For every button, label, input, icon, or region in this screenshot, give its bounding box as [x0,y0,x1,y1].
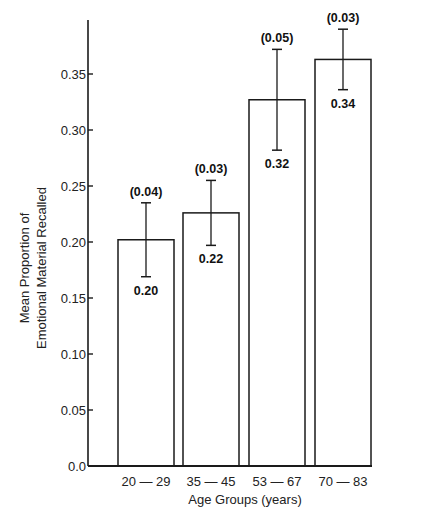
x-axis-title: Age Groups (years) [188,492,301,507]
bar-chart: 0.00.050.100.150.200.250.300.35 (0.04)0.… [0,0,424,515]
value-label: 0.32 [265,157,289,171]
x-tick-label: 70 — 83 [318,474,367,489]
bars: (0.04)0.20(0.03)0.22(0.05)0.32(0.03)0.34 [118,11,371,466]
y-axis-title-line: Mean Proportion of [17,212,32,323]
error-label: (0.03) [195,162,228,176]
bar-group: (0.05)0.32 [249,31,305,466]
bar [249,100,305,466]
x-tick-label: 20 — 29 [121,474,170,489]
bar [183,213,239,466]
error-label: (0.04) [130,185,163,199]
error-label: (0.05) [261,31,294,45]
bar [315,59,371,466]
y-tick-label: 0.15 [61,291,86,306]
y-axis-title: Mean Proportion ofEmotional Material Rec… [17,187,49,349]
value-label: 0.20 [134,284,158,298]
x-tick-label: 35 — 45 [186,474,235,489]
y-tick-label: 0.20 [61,235,86,250]
y-tick-label: 0.25 [61,179,86,194]
y-tick-label: 0.35 [61,67,86,82]
y-tick-label: 0.0 [68,459,86,474]
error-label: (0.03) [327,11,360,25]
x-tick-label: 53 — 67 [252,474,301,489]
x-axis: 20 — 2935 — 4553 — 6770 — 83 [88,466,372,489]
y-axis: 0.00.050.100.150.200.250.300.35 [61,20,93,474]
y-axis-title-line: Emotional Material Recalled [34,187,49,349]
y-tick-label: 0.05 [61,403,86,418]
bar-group: (0.03)0.34 [315,11,371,466]
value-label: 0.22 [199,252,223,266]
y-tick-label: 0.30 [61,123,86,138]
y-tick-label: 0.10 [61,347,86,362]
bar-group: (0.04)0.20 [118,185,174,466]
value-label: 0.34 [331,97,355,111]
bar-group: (0.03)0.22 [183,162,239,466]
